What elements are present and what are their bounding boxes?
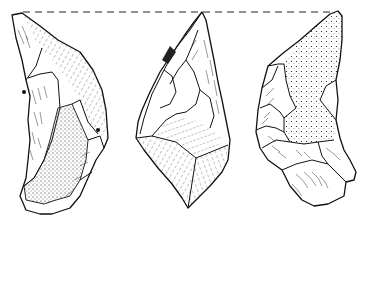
middle-view [136, 12, 230, 208]
right-view [256, 11, 356, 206]
stone-tool-illustration [0, 0, 371, 287]
left-view [12, 13, 108, 214]
figure [0, 0, 371, 287]
